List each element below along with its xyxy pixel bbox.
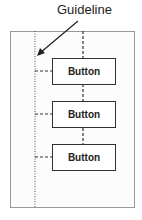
button-2[interactable]: Button xyxy=(52,101,116,128)
button-1[interactable]: Button xyxy=(52,58,116,85)
arrow-icon xyxy=(40,21,78,53)
button-3[interactable]: Button xyxy=(52,144,116,171)
